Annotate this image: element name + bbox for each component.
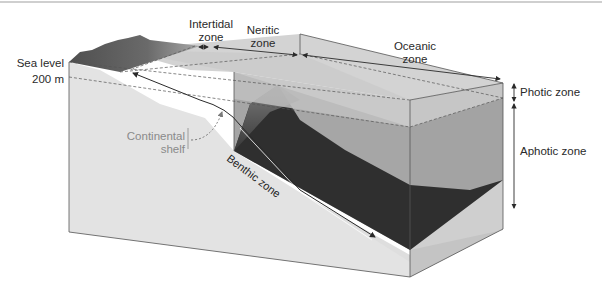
- ocean-block-diagram: [0, 0, 602, 293]
- depth-200m-label: 200 m: [10, 73, 64, 86]
- sea-level-label: Sea level: [10, 57, 64, 70]
- oceanic-zone-label: Oceanic zone: [380, 40, 450, 66]
- neritic-zone-label: Neritic zone: [238, 24, 288, 50]
- intertidal-zone-label: Intertidal zone: [186, 18, 236, 44]
- aphotic-zone-label: Aphotic zone: [520, 145, 587, 158]
- photic-zone-label: Photic zone: [520, 86, 580, 99]
- continental-shelf-label: Continental shelf: [120, 130, 185, 156]
